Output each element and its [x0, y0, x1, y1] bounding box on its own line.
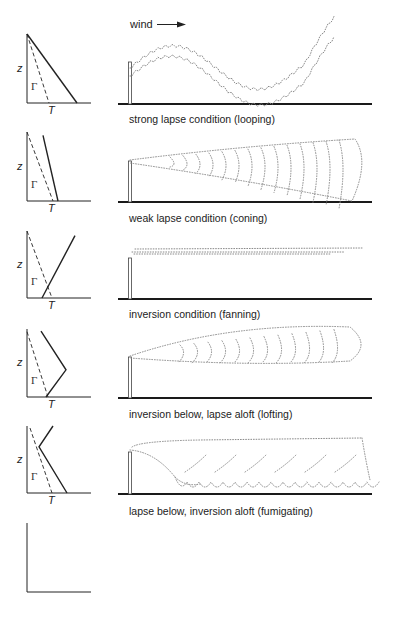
gamma-label: Γ — [31, 374, 37, 386]
z-axis-label: z — [16, 453, 23, 465]
panel-caption: lapse below, inversion aloft (fumigating… — [129, 505, 313, 517]
plume-outline — [130, 139, 362, 201]
plume-outline — [222, 152, 226, 180]
panel-fanning: zTΓinversion condition (fanning) — [16, 231, 372, 320]
panel-caption: inversion below, lapse aloft (lofting) — [129, 408, 292, 420]
plume-outline — [215, 454, 237, 472]
smokestack-icon — [129, 452, 132, 494]
gamma-label: Γ — [31, 275, 37, 287]
gamma-label: Γ — [31, 80, 37, 92]
plume-outline — [206, 342, 212, 363]
plume-outline — [220, 341, 226, 363]
adiabatic-lapse-line — [27, 34, 49, 103]
t-axis-label: T — [48, 398, 56, 410]
gamma-label: Γ — [31, 470, 37, 482]
environmental-lapse-line — [27, 34, 77, 103]
plume-scene — [118, 248, 372, 299]
plume-outline — [234, 339, 240, 363]
plume-outline — [183, 156, 187, 171]
temperature-profile-graph: zTΓ — [16, 34, 91, 116]
panel-lofting: zTΓinversion below, lapse aloft (lofting… — [16, 326, 372, 420]
smokestack-icon — [129, 258, 132, 299]
plume-outline — [178, 345, 184, 363]
panel-looping: zTΓstrong lapse condition (looping) — [16, 16, 372, 125]
plume-scene — [118, 438, 379, 494]
plume-outline — [287, 145, 291, 196]
plume-outline — [248, 149, 252, 186]
plume-outline — [130, 326, 361, 363]
wind-arrow-icon — [177, 22, 186, 28]
t-axis-label: T — [48, 494, 56, 506]
panel-caption: inversion condition (fanning) — [129, 308, 260, 320]
plume-outline — [318, 331, 324, 363]
adiabatic-lapse-line — [27, 332, 48, 397]
plume-outline — [339, 140, 343, 209]
plume-outline — [135, 248, 362, 249]
adiabatic-lapse-line — [27, 132, 53, 201]
plume-outline — [248, 338, 254, 363]
panel-fumigating: zTΓlapse below, inversion aloft (fumigat… — [16, 426, 379, 517]
plume-outline — [275, 454, 297, 472]
temperature-profile-graph: zTΓ — [16, 329, 91, 410]
plume-outline — [326, 141, 330, 205]
plume-outline — [196, 154, 200, 173]
t-axis-label: T — [48, 104, 56, 116]
adiabatic-lapse-line — [30, 428, 52, 493]
temperature-profile-graph — [27, 523, 91, 592]
wind-indicator: wind — [129, 18, 186, 30]
plume-outline — [175, 477, 379, 487]
plume-outline — [313, 143, 317, 203]
plume-scene — [118, 139, 372, 209]
plume-outline — [235, 151, 239, 184]
plume-outline — [304, 332, 310, 363]
panel-caption: strong lapse condition (looping) — [129, 113, 275, 125]
panel-trapping — [27, 523, 91, 592]
plume-outline — [209, 153, 213, 177]
plume-outline — [262, 337, 268, 363]
temperature-profile-graph: zTΓ — [16, 231, 91, 311]
gamma-label: Γ — [31, 178, 37, 190]
panel-caption: weak lapse condition (coning) — [128, 212, 267, 224]
plume-outline — [276, 335, 282, 363]
plume-outline — [245, 454, 267, 472]
adiabatic-lapse-line — [27, 231, 52, 298]
wind-label: wind — [129, 18, 153, 30]
environmental-lapse-line — [39, 426, 67, 493]
plume-outline — [130, 450, 200, 485]
environmental-lapse-line — [41, 331, 66, 397]
z-axis-label: z — [16, 62, 23, 74]
smokestack-icon — [129, 161, 132, 202]
plume-scene — [118, 16, 372, 106]
plume-outline — [185, 454, 207, 472]
t-axis-label: T — [48, 202, 56, 214]
plume-behavior-diagram: wind zTΓstrong lapse condition (looping)… — [0, 0, 399, 630]
plume-outline — [132, 438, 362, 447]
plume-outline — [170, 157, 174, 167]
plume-outline — [130, 37, 334, 107]
plume-outline — [274, 147, 278, 193]
plume-outline — [261, 148, 265, 190]
plume-outline — [192, 344, 198, 363]
environmental-lapse-line — [43, 135, 58, 201]
plume-outline — [332, 330, 338, 363]
temperature-profile-graph: zTΓ — [16, 426, 91, 506]
plume-outline — [335, 454, 357, 472]
panel-coning: zTΓweak lapse condition (coning) — [16, 132, 372, 224]
plume-outline — [305, 454, 327, 472]
z-axis-label: z — [16, 258, 23, 270]
z-axis-label: z — [16, 160, 23, 172]
z-axis-label: z — [16, 356, 23, 368]
environmental-lapse-line — [42, 236, 75, 298]
plume-scene — [118, 326, 372, 398]
temperature-profile-graph: zTΓ — [16, 132, 91, 214]
plume-outline — [290, 334, 296, 363]
plume-outline — [130, 16, 334, 90]
plume-outline — [362, 438, 370, 480]
t-axis-label: T — [48, 299, 56, 311]
smokestack-icon — [129, 357, 132, 398]
